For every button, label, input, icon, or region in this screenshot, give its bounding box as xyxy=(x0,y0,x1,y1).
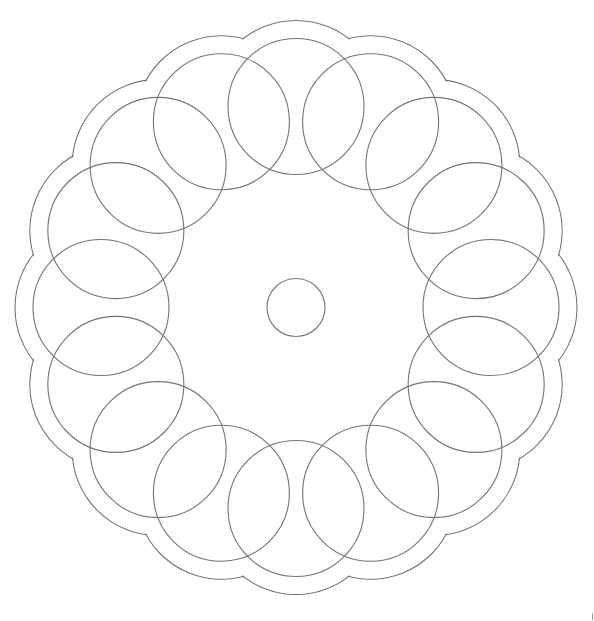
scallop-outline-mask xyxy=(16,21,576,593)
rosette-diagram xyxy=(0,0,594,621)
inner-mask xyxy=(101,107,491,509)
corner-tick-mark xyxy=(592,613,593,620)
